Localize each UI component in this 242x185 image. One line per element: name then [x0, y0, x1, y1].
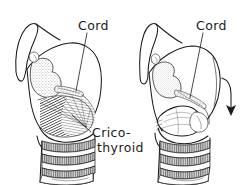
- left-larynx-panel: [16, 23, 102, 184]
- label-cricothyroid-line2: thyroid: [97, 140, 144, 155]
- thyroid-tilt-arrow: [222, 78, 236, 116]
- trachea-right: [158, 138, 210, 185]
- label-cricothyroid-line1: Crico-: [92, 125, 131, 140]
- superior-horn-right: [156, 24, 182, 43]
- larynx-diagram: Cord Cord Crico- thyroid: [0, 0, 242, 185]
- right-larynx-panel: [140, 23, 236, 184]
- trachea-left: [40, 136, 95, 185]
- label-cord-right: Cord: [196, 18, 227, 33]
- figure-canvas: Cord Cord Crico- thyroid: [0, 0, 242, 185]
- superior-horn-left: [36, 24, 60, 40]
- label-cord-left: Cord: [78, 18, 109, 33]
